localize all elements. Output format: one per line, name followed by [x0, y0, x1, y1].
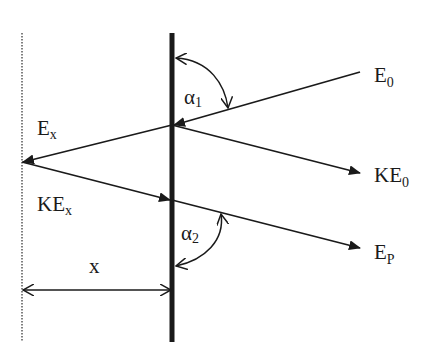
label-ep: EP	[374, 240, 395, 267]
label-alpha1: α1	[184, 85, 202, 110]
ray-ep	[172, 200, 360, 248]
label-ex: Ex	[37, 116, 57, 142]
diagram-canvas: E0 KE0 EP Ex KEx α1 α2 x	[0, 0, 437, 356]
label-e0: E0	[374, 63, 394, 90]
label-ke0: KE0	[374, 163, 409, 190]
ray-ke0	[172, 125, 360, 173]
label-distance-x: x	[89, 254, 100, 278]
label-alpha2: α2	[181, 221, 199, 246]
label-kex: KEx	[37, 192, 72, 218]
